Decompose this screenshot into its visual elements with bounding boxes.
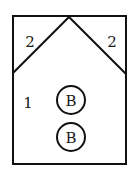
marker-label: B xyxy=(65,92,76,110)
diagram-svg: 2 2 1 B B xyxy=(0,0,136,169)
main-region-label: 1 xyxy=(23,94,33,112)
right-corner-label: 2 xyxy=(107,33,117,51)
marker-b-top: B xyxy=(57,86,85,114)
left-corner-label: 2 xyxy=(25,33,35,51)
marker-label: B xyxy=(65,129,76,147)
marker-b-bottom: B xyxy=(57,123,85,151)
diagram-canvas: 2 2 1 B B xyxy=(0,0,136,169)
